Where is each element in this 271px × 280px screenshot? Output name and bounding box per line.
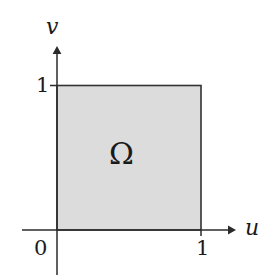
v-axis-arrowhead <box>53 46 62 54</box>
v-axis-label: v <box>46 16 58 38</box>
u-axis-label: u <box>245 217 259 239</box>
omega-region-label: Ω <box>109 139 134 169</box>
v-axis-tick-label-1: 1 <box>36 75 49 96</box>
figure-canvas: v u 1 1 0 Ω <box>0 0 271 280</box>
u-axis-tick-label-1: 1 <box>196 238 209 259</box>
u-axis-arrowhead <box>228 226 236 235</box>
origin-label: 0 <box>34 238 47 259</box>
